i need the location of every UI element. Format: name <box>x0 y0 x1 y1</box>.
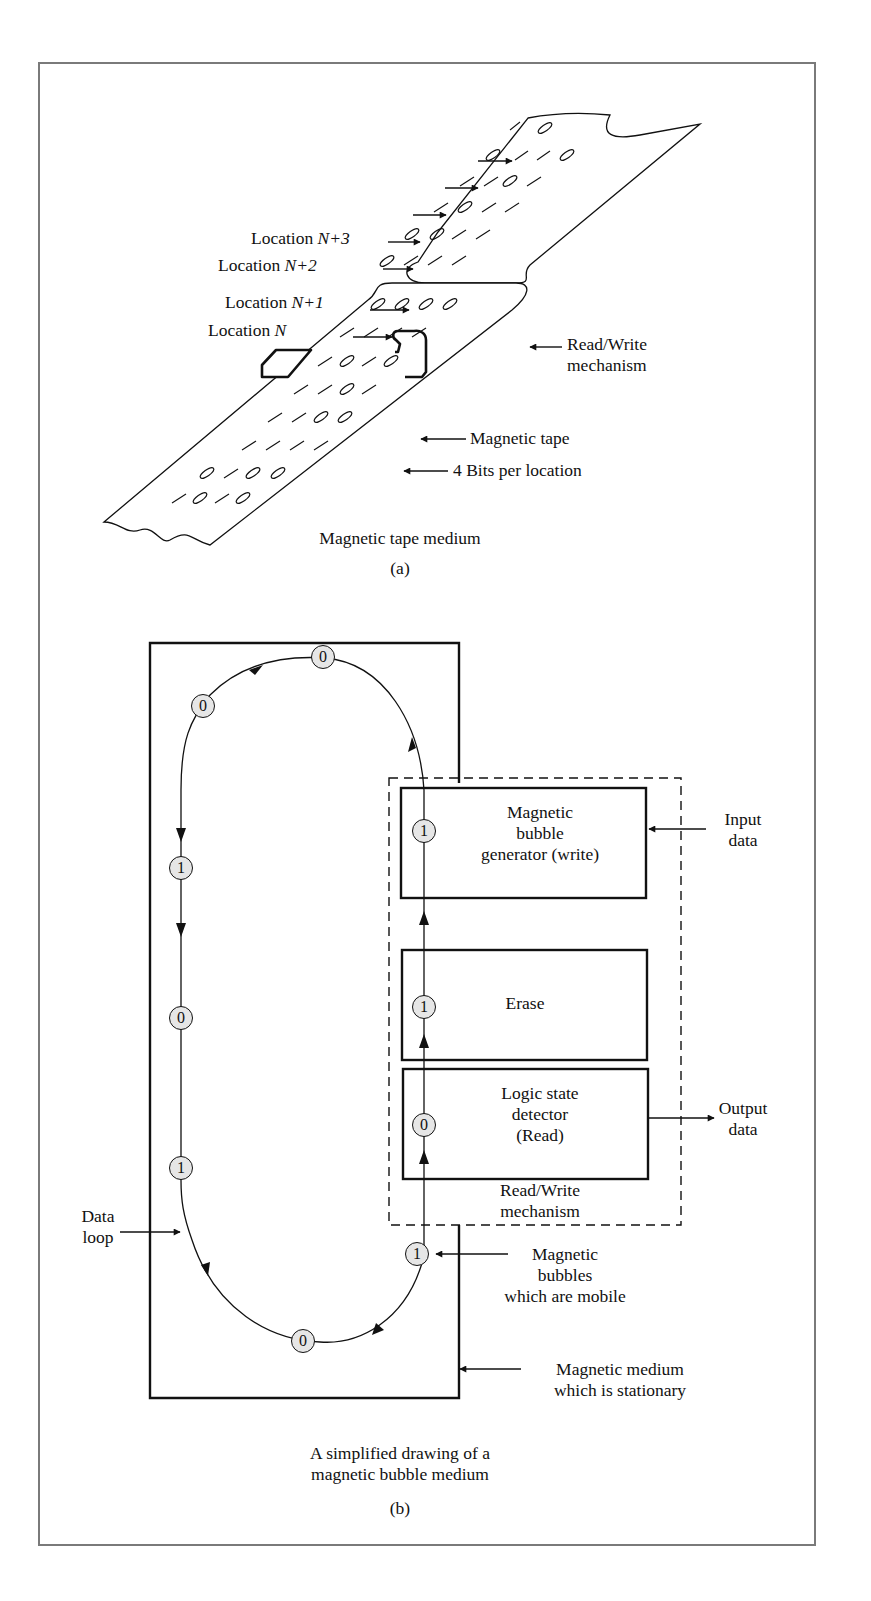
bubble: 0 <box>291 1329 315 1353</box>
bubble: 1 <box>405 1242 429 1266</box>
read-write-label-b: Read/Writemechanism <box>430 1180 650 1222</box>
data-loop-path <box>181 657 424 1342</box>
bubble: 0 <box>311 645 335 669</box>
bubble: 1 <box>169 856 193 880</box>
data-loop-arrows <box>176 665 429 1335</box>
input-data-label: Inputdata <box>708 809 778 851</box>
bubble: 0 <box>191 694 215 718</box>
bubbles-label: Magneticbubbleswhich are mobile <box>480 1244 650 1307</box>
diagram-drawing <box>0 0 871 1601</box>
caption-b: A simplified drawing of amagnetic bubble… <box>300 1443 500 1485</box>
medium-label: Magnetic mediumwhich is stationary <box>520 1359 720 1401</box>
detector-label: Logic statedetector(Read) <box>430 1083 650 1146</box>
label-location-n1: Location N+1 <box>225 292 324 313</box>
data-loop-label: Dataloop <box>58 1206 138 1248</box>
output-data-label: Outputdata <box>708 1098 778 1140</box>
generator-label: Magneticbubblegenerator (write) <box>430 802 650 865</box>
magnetic-medium-outline <box>150 643 459 1398</box>
label-location-n2: Location N+2 <box>218 255 317 276</box>
erase-label: Erase <box>430 993 620 1014</box>
bubble: 1 <box>169 1156 193 1180</box>
bubble: 0 <box>169 1006 193 1030</box>
tag-b: (b) <box>380 1498 420 1519</box>
label-location-n: Location N <box>208 320 286 341</box>
label-magnetic-tape: Magnetic tape <box>470 428 570 449</box>
label-location-n3: Location N+3 <box>251 228 350 249</box>
label-read-write-a: Read/Writemechanism <box>567 334 647 376</box>
caption-a: Magnetic tape medium <box>300 528 500 549</box>
tag-a: (a) <box>380 558 420 579</box>
magnetic-tape <box>104 113 700 545</box>
label-bits-per-location: 4 Bits per location <box>453 460 582 481</box>
